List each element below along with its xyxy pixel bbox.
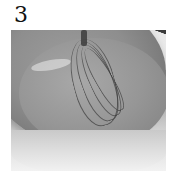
bowl-exterior (11, 130, 166, 171)
bowl-whisk-photo (11, 30, 166, 171)
step-number: 3 (14, 4, 28, 26)
